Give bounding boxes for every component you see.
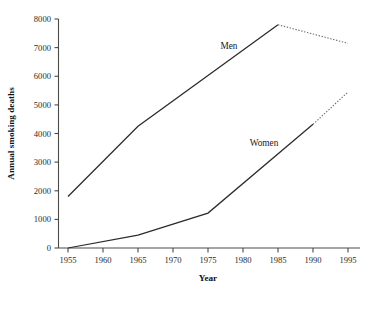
series-layer xyxy=(68,25,348,248)
x-axis-ticks xyxy=(68,248,348,253)
y-tick-label: 8000 xyxy=(34,14,51,24)
y-tick-label: 3000 xyxy=(34,157,51,167)
x-tick-label: 1975 xyxy=(199,255,216,265)
chart-figure: 8000 7000 6000 5000 4000 3000 2000 1000 … xyxy=(0,0,372,315)
x-tick-label: 1965 xyxy=(129,255,146,265)
x-axis-title: Year xyxy=(199,273,217,283)
x-tick-label: 1960 xyxy=(94,255,111,265)
x-tick-label: 1970 xyxy=(164,255,181,265)
y-tick-label: 6000 xyxy=(34,71,51,81)
y-axis-title: Annual smoking deaths xyxy=(6,87,16,180)
x-tick-label: 1985 xyxy=(269,255,286,265)
x-tick-label: 1990 xyxy=(304,255,321,265)
y-tick-label: 7000 xyxy=(34,43,51,53)
y-tick-label: 4000 xyxy=(34,129,51,139)
x-tick-label: 1955 xyxy=(59,255,76,265)
y-axis-ticks xyxy=(55,19,59,248)
series-path-men xyxy=(68,25,278,197)
series-projection-men xyxy=(278,25,348,44)
series-label-women: Women xyxy=(250,138,279,148)
y-tick-label: 1000 xyxy=(34,214,51,224)
y-tick-label: 5000 xyxy=(34,100,51,110)
x-axis-tick-labels: 1955 1960 1965 1970 1975 1980 1985 1990 … xyxy=(59,255,356,265)
series-label-men: Men xyxy=(220,41,237,51)
x-tick-label: 1995 xyxy=(339,255,356,265)
y-axis-tick-labels: 8000 7000 6000 5000 4000 3000 2000 1000 … xyxy=(34,14,51,253)
y-tick-label: 2000 xyxy=(34,186,51,196)
series-projection-women xyxy=(313,92,348,124)
x-tick-label: 1980 xyxy=(234,255,251,265)
y-tick-label: 0 xyxy=(47,243,51,253)
line-chart-canvas: 8000 7000 6000 5000 4000 3000 2000 1000 … xyxy=(0,0,372,315)
